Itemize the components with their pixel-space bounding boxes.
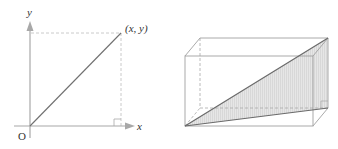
x-axis-label: x [136, 120, 142, 132]
position-line [30, 33, 121, 126]
cuboid-figure [185, 38, 328, 126]
coordinate-plane-figure: y x O (x, y) [14, 6, 148, 142]
y-axis-arrow-icon [27, 21, 34, 31]
point-label: (x, y) [125, 22, 148, 35]
x-axis-arrow-icon [125, 123, 135, 130]
right-angle-mark [114, 119, 121, 126]
origin-label: O [18, 130, 26, 142]
edge-bottom-right-depth [313, 108, 328, 126]
diagram-canvas: y x O (x, y) [0, 0, 338, 149]
y-axis-label: y [26, 6, 32, 18]
